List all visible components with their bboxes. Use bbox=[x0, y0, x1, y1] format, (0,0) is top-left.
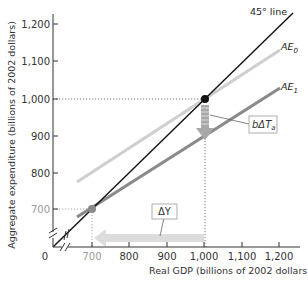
delta-y-leader bbox=[160, 218, 164, 236]
ae1-line bbox=[77, 88, 280, 217]
y-tick-label: 1,000 bbox=[21, 94, 50, 105]
x-tick-label: 900 bbox=[157, 251, 176, 262]
x-tick-label: 1,100 bbox=[228, 251, 257, 262]
x-tick-label: 1,000 bbox=[190, 251, 219, 262]
delta-y-arrow bbox=[94, 229, 204, 247]
x-tick-label: 800 bbox=[119, 251, 138, 262]
ae0-label: AE0 bbox=[280, 41, 299, 55]
chart: 1,200 1,100 1,000 900 800 700 0 700 800 … bbox=[0, 0, 308, 285]
y-axis-title: Aggregate expenditure (billions of 2002 … bbox=[6, 21, 17, 249]
x-tick-label-origin: 0 bbox=[42, 251, 48, 262]
ae1-label: AE1 bbox=[280, 81, 298, 95]
y-tick-label: 700 bbox=[31, 204, 50, 215]
x-tick-label: 700 bbox=[82, 251, 101, 262]
equilibrium-point-700 bbox=[88, 205, 96, 213]
line-45-label: 45° line bbox=[250, 6, 287, 17]
delta-y-label: ΔY bbox=[158, 206, 172, 217]
x-tick-label: 1,200 bbox=[265, 251, 294, 262]
tax-shift-arrow bbox=[196, 105, 214, 140]
y-tick-label: 1,200 bbox=[21, 19, 50, 30]
y-ticks bbox=[53, 24, 58, 209]
x-ticks bbox=[92, 242, 279, 247]
y-tick-label: 800 bbox=[31, 168, 50, 179]
y-tick-label: 900 bbox=[31, 131, 50, 142]
x-axis-title: Real GDP (billions of 2002 dollars) bbox=[149, 265, 308, 276]
y-tick-label: 1,100 bbox=[21, 56, 50, 67]
tax-shift-leader bbox=[210, 115, 249, 124]
equilibrium-point-1000 bbox=[201, 95, 209, 103]
